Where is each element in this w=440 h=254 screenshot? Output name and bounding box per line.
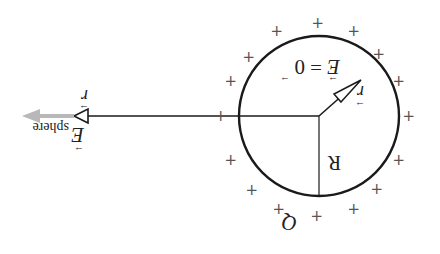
svg-text:= 0: = 0 [294,55,322,79]
svg-text:+: + [224,72,237,90]
svg-text:→: → [328,75,338,86]
svg-text:+: + [402,107,415,125]
shell-field-diagram: + + + + + + + + + + + + + + + + R Q E = … [0,0,440,254]
svg-text:+: + [372,45,385,63]
label-inner-r: r → [355,82,365,111]
svg-text:+: + [270,22,283,40]
svg-text:+: + [370,180,383,198]
svg-text:+: + [392,151,405,169]
surface-charges: + + + + + + + + + + + + + + + + [214,14,415,225]
svg-text:sphere: sphere [32,120,69,135]
svg-text:+: + [347,200,360,218]
svg-text:+: + [242,48,255,66]
svg-text:+: + [214,107,227,125]
svg-text:+: + [245,181,258,199]
svg-text:→: → [74,145,84,156]
svg-text:→: → [280,75,290,86]
label-outer-r: r → [79,86,89,114]
svg-text:+: + [311,14,324,32]
svg-text:r: r [356,82,364,102]
svg-text:+: + [310,207,323,225]
label-Q: Q [282,211,297,235]
svg-text:+: + [392,72,405,90]
label-e-sphere: E sphere → [32,120,85,156]
svg-text:→: → [79,103,89,114]
svg-text:E: E [71,123,85,147]
label-e-equals-zero: E = 0 → → [280,55,341,86]
svg-text:+: + [224,151,237,169]
svg-text:r: r [80,86,88,106]
label-R: R [327,152,341,174]
svg-text:+: + [347,22,360,40]
svg-text:→: → [355,100,365,111]
